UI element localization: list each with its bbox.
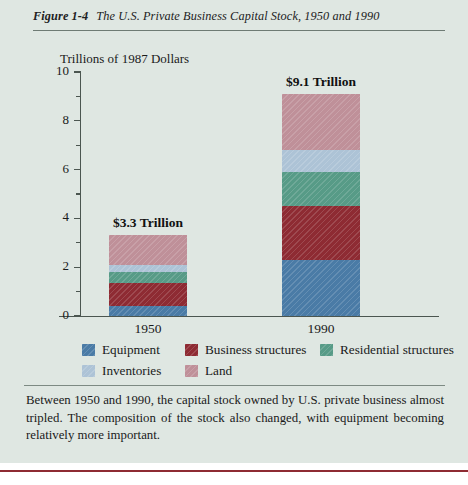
- y-tick-10: [74, 71, 81, 72]
- y-tick-label-2: 2: [43, 258, 69, 274]
- y-tick-label-6: 6: [43, 161, 69, 177]
- bar-segment-1950-equipment: [109, 306, 187, 316]
- figure-page: Figure 1-4The U.S. Private Business Capi…: [0, 0, 468, 485]
- segment-hatch-texture: [282, 206, 360, 260]
- bar-segment-1990-inventories: [282, 150, 360, 172]
- legend-item-equipment[interactable]: Equipment: [82, 341, 160, 359]
- swatch-hatch-texture: [82, 365, 95, 377]
- page-bottom-rule: [0, 470, 468, 472]
- segment-hatch-texture: [109, 306, 187, 316]
- y-minor-tick-3: [76, 242, 81, 243]
- y-tick-2: [74, 267, 81, 268]
- y-tick-label-10: 10: [43, 63, 69, 79]
- x-tick-label-1990: 1990: [261, 321, 381, 337]
- figure-title-text: The U.S. Private Business Capital Stock,…: [96, 9, 379, 23]
- legend-label-residential-structures: Residential structures: [340, 342, 454, 358]
- y-tick-8: [74, 120, 81, 121]
- figure-title: Figure 1-4The U.S. Private Business Capi…: [33, 9, 453, 24]
- bar-segment-1950-inventories: [109, 265, 187, 272]
- legend-item-inventories[interactable]: Inventories: [82, 362, 161, 380]
- y-minor-tick-7: [76, 145, 81, 146]
- y-minor-tick-9: [76, 96, 81, 97]
- chart: Trillions of 1987 Dollars 0246810 $3.3 T…: [33, 38, 445, 338]
- segment-hatch-texture: [109, 265, 187, 272]
- legend-label-equipment: Equipment: [102, 342, 160, 358]
- y-tick-label-8: 8: [43, 112, 69, 128]
- bar-segment-1990-residential-structures: [282, 172, 360, 206]
- segment-hatch-texture: [282, 94, 360, 150]
- bar-total-label-1950: $3.3 Trillion: [78, 215, 218, 231]
- bar-segment-1950-residential-structures: [109, 272, 187, 283]
- legend-label-business-structures: Business structures: [205, 342, 306, 358]
- segment-hatch-texture: [282, 172, 360, 206]
- segment-hatch-texture: [109, 235, 187, 264]
- chart-legend: EquipmentBusiness structuresResidential …: [33, 341, 445, 381]
- y-tick-6: [74, 169, 81, 170]
- segment-hatch-texture: [109, 272, 187, 283]
- swatch-hatch-texture: [185, 365, 198, 377]
- legend-swatch-inventories: [82, 365, 95, 377]
- bar-segment-1950-land: [109, 235, 187, 264]
- legend-item-business-structures[interactable]: Business structures: [185, 341, 306, 359]
- legend-label-land: Land: [205, 363, 232, 379]
- x-tick-label-1950: 1950: [88, 321, 208, 337]
- y-tick-0: [74, 315, 81, 316]
- y-minor-tick-5: [76, 193, 81, 194]
- bar-segment-1990-equipment: [282, 260, 360, 316]
- figure-number: Figure 1-4: [33, 9, 88, 23]
- bar-1950[interactable]: [109, 38, 187, 316]
- segment-hatch-texture: [282, 150, 360, 172]
- y-minor-tick-1: [76, 291, 81, 292]
- legend-item-land[interactable]: Land: [185, 362, 232, 380]
- swatch-hatch-texture: [320, 344, 333, 356]
- y-tick-label-4: 4: [43, 209, 69, 225]
- segment-hatch-texture: [282, 260, 360, 316]
- figure-caption: Between 1950 and 1990, the capital stock…: [26, 392, 444, 445]
- legend-row-1: EquipmentBusiness structuresResidential …: [33, 341, 445, 359]
- legend-row-2: InventoriesLand: [33, 362, 445, 380]
- legend-swatch-land: [185, 365, 198, 377]
- bar-segment-1990-land: [282, 94, 360, 150]
- title-divider: [33, 30, 445, 31]
- legend-swatch-equipment: [82, 344, 95, 356]
- swatch-hatch-texture: [82, 344, 95, 356]
- legend-divider: [24, 385, 445, 386]
- bar-segment-1990-business-structures: [282, 206, 360, 260]
- bar-segment-1950-business-structures: [109, 283, 187, 306]
- swatch-hatch-texture: [185, 344, 198, 356]
- segment-hatch-texture: [109, 283, 187, 306]
- bar-total-label-1990: $9.1 Trillion: [251, 74, 391, 90]
- legend-swatch-residential-structures: [320, 344, 333, 356]
- legend-item-residential-structures[interactable]: Residential structures: [320, 341, 454, 359]
- legend-label-inventories: Inventories: [102, 363, 161, 379]
- y-tick-label-0: 0: [43, 307, 69, 323]
- x-axis-line: [59, 316, 439, 317]
- legend-swatch-business-structures: [185, 344, 198, 356]
